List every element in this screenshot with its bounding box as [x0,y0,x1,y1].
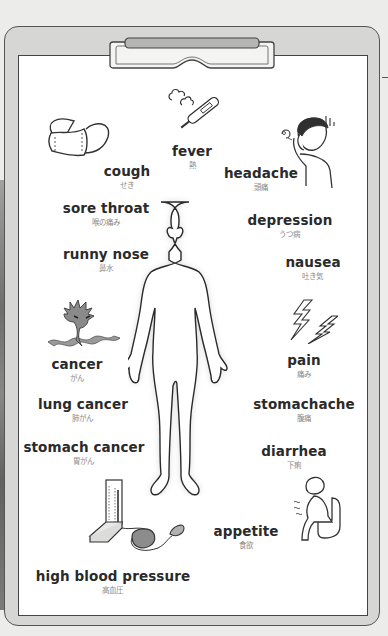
term-pain: pain 痛み [287,352,320,380]
term-english: depression [248,212,333,228]
term-japanese: せき [104,181,151,191]
term-japanese: 胃がん [23,457,144,467]
term-english: runny nose [63,246,149,262]
term-japanese: がん [51,374,102,384]
term-japanese: 腹痛 [253,414,355,424]
term-stomach-cancer: stomach cancer 胃がん [23,439,144,467]
term-japanese: 肺がん [38,414,128,424]
sphygmomanometer-icon [88,478,188,560]
term-japanese: うつ病 [248,230,333,240]
term-lung-cancer: lung cancer 肺がん [38,396,128,424]
term-english: cancer [51,356,102,372]
term-high-blood-pressure: high blood pressure 高血圧 [36,568,190,596]
term-english: nausea [285,254,340,270]
lightning-bolts-icon [288,298,338,344]
term-japanese: 鼻水 [63,264,149,274]
face-mask-icon [46,115,114,165]
term-english: high blood pressure [36,568,190,584]
term-japanese: 痛み [287,370,320,380]
term-sore-throat: sore throat 喉の痛み [63,200,149,228]
term-depression: depression うつ病 [248,212,333,240]
term-english: appetite [213,523,278,539]
term-japanese: 吐き気 [285,272,340,282]
term-runny-nose: runny nose 鼻水 [63,246,149,274]
term-english: headache [224,165,298,181]
background-line [382,77,388,78]
term-japanese: 熱 [172,161,212,171]
term-english: diarrhea [261,443,326,459]
term-cancer: cancer がん [51,356,102,384]
term-japanese: 下痢 [261,461,326,471]
term-japanese: 高血圧 [36,586,190,596]
term-english: sore throat [63,200,149,216]
cancer-monster-icon [46,296,122,354]
term-english: stomach cancer [23,439,144,455]
term-diarrhea: diarrhea 下痢 [261,443,326,471]
term-stomachache: stomachache 腹痛 [253,396,355,424]
term-english: cough [104,163,151,179]
term-english: fever [172,143,212,159]
term-nausea: nausea 吐き気 [285,254,340,282]
term-appetite: appetite 食欲 [213,523,278,551]
term-english: lung cancer [38,396,128,412]
term-japanese: 頭痛 [224,183,298,193]
person-on-toilet-icon [292,474,348,544]
human-body-outline [128,196,250,496]
thermometer-icon [166,86,230,132]
term-english: stomachache [253,396,355,412]
term-japanese: 喉の痛み [63,218,149,228]
term-english: pain [287,352,320,368]
clipboard-clip-icon [109,36,275,72]
term-fever: fever 熱 [172,143,212,171]
term-headache: headache 頭痛 [224,165,298,193]
term-japanese: 食欲 [213,541,278,551]
term-cough: cough せき [104,163,151,191]
